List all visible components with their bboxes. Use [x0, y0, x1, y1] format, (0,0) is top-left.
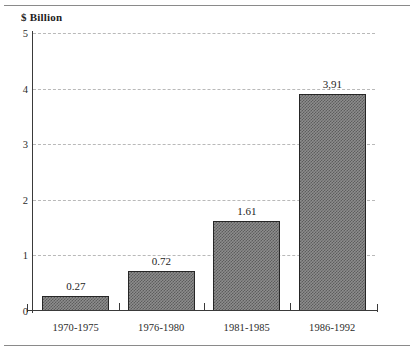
- page-rule-bottom: [4, 345, 410, 346]
- gridline: [33, 33, 375, 34]
- bar-value-label: 0.27: [66, 280, 85, 292]
- bar: [42, 296, 109, 311]
- bar: [128, 271, 195, 311]
- x-axis-right-cap: [377, 304, 378, 312]
- bar: [213, 221, 280, 311]
- bar-value-label: 0.72: [152, 255, 171, 267]
- plot-area: [33, 33, 375, 311]
- category-label: 1970-1975: [53, 322, 99, 333]
- figure: $ Billion 012345 1970-19751976-19801981-…: [0, 0, 414, 358]
- x-tick-mark: [290, 303, 291, 311]
- page-rule-top: [4, 5, 410, 6]
- x-axis-line: [27, 310, 378, 311]
- y-tick-label: 2: [6, 194, 28, 205]
- y-tick-label: 3: [6, 139, 28, 150]
- y-tick-label: 1: [6, 250, 28, 261]
- y-axis-line: [32, 31, 33, 313]
- bar-value-label: 1.61: [237, 205, 256, 217]
- y-tick-labels: 012345: [0, 0, 28, 358]
- category-label: 1976-1980: [138, 322, 184, 333]
- y-tick-label: 5: [6, 28, 28, 39]
- x-tick-mark: [204, 303, 205, 311]
- y-tick-label: 4: [6, 83, 28, 94]
- category-label: 1981-1985: [224, 322, 270, 333]
- y-tick-label: 0: [6, 306, 28, 317]
- x-tick-mark: [119, 303, 120, 311]
- bar-value-label: 3,91: [323, 78, 342, 90]
- bar: [299, 94, 366, 311]
- category-label: 1986-1992: [309, 322, 355, 333]
